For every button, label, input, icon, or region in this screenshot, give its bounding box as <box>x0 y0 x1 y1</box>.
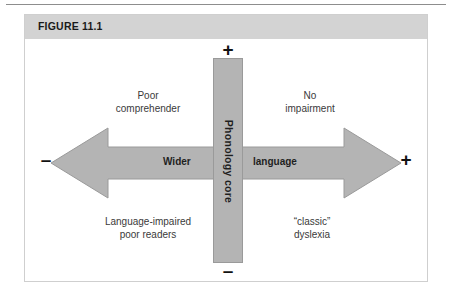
quadrant-label-bottom-right: “classic” dyslexia <box>247 216 377 242</box>
quadrant-label-line2: impairment <box>245 103 375 116</box>
quadrant-label-line1: Language-impaired <box>73 216 223 229</box>
quadrant-label-line2: poor readers <box>73 229 223 242</box>
figure-title: FIGURE 11.1 <box>38 20 103 32</box>
quadrant-label-line2: dyslexia <box>247 229 377 242</box>
quadrant-label-top-right: No impairment <box>245 90 375 116</box>
axis-label-wider: Wider <box>163 157 191 167</box>
page-top-rule <box>6 4 446 5</box>
vertical-axis-minus-sign: – <box>208 261 248 280</box>
figure-box: FIGURE 11.1 Wider language Phonology cor… <box>24 14 428 282</box>
quadrant-label-line1: No <box>245 90 375 103</box>
quadrant-label-line2: comprehender <box>83 103 213 116</box>
horizontal-axis-minus-sign: – <box>33 150 59 169</box>
quadrant-label-bottom-left: Language-impaired poor readers <box>73 216 223 242</box>
diagram-canvas: Wider language Phonology core + – – + Po… <box>25 39 427 282</box>
axis-label-language: language <box>253 157 297 167</box>
quadrant-label-line1: Poor <box>83 90 213 103</box>
horizontal-axis-plus-sign: + <box>393 150 419 169</box>
quadrant-label-top-left: Poor comprehender <box>83 90 213 116</box>
figure-header-band: FIGURE 11.1 <box>25 15 427 39</box>
vertical-axis-plus-sign: + <box>208 40 248 59</box>
quadrant-label-line1: “classic” <box>247 216 377 229</box>
figure-page: FIGURE 11.1 Wider language Phonology cor… <box>0 0 451 295</box>
